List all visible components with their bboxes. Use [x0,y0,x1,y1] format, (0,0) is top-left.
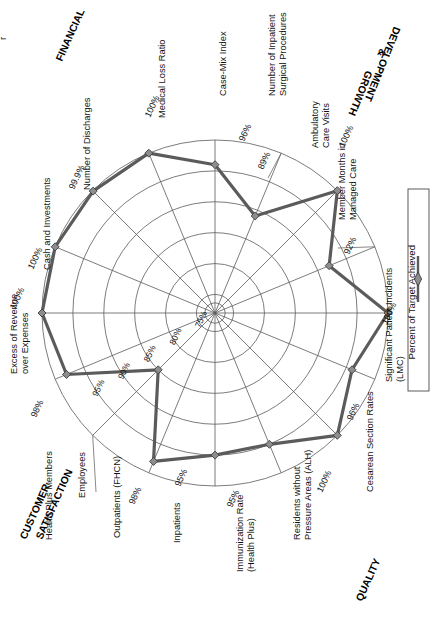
axis-label-text-member-months-1: Managed Care [348,158,358,220]
legend: Percent of Target Achieved [406,189,429,391]
ring-tick-labels: 75%80%85%90%95% [90,309,209,398]
data-marker-8 [265,440,273,448]
axis-spoke-7 [215,313,337,435]
axis-value-patient-incidents: 100% [380,301,399,326]
axis-label-text-case-mix-index-0: Case-Mix Index [218,31,228,96]
axis-value-outpatients-fhcn: 98% [127,485,144,506]
axis-label-inpatients: Inpatients95% [172,467,189,543]
ring-tick-label-80: 80% [167,326,183,346]
axis-label-text-cash-and-investments-0: Cash and Investments [42,177,52,270]
category-label-financial: FINANCIAL [54,7,87,63]
category-growth-development: GROWTH & DEVELOPMENT [346,25,402,117]
axis-label-excess-revenue: Excess of Revenueover Expenses100% [8,286,30,374]
axis-label-pressure-areas: Residents withoutPressure Areas (ALH)100… [292,450,334,540]
axis-value-inpatients: 95% [173,467,190,488]
axis-value-inpatient-surgical: 89% [256,150,273,171]
axis-label-patient-incidents: Significant Patient Incidents(LMC)100% [380,267,405,382]
radar-chart: 75%80%85%90%95% Medical Loss Ratio100%Ca… [0,0,431,630]
axis-value-excess-revenue: 100% [8,286,27,311]
axis-label-text-ambulatory-care-visits-1: Care Visits [321,103,331,148]
axis-value-member-months: 92% [342,235,359,256]
axis-label-inpatient-surgical: Number of InpatientSurgical Procedures89… [256,12,288,171]
axis-label-text-inpatient-surgical-0: Number of Inpatient [267,14,277,96]
axis-value-case-mix-index: 96% [237,122,254,143]
axis-label-text-medical-loss-ratio-0: Medical Loss Ratio [157,39,167,118]
data-marker-9 [211,451,219,459]
axis-label-text-pressure-areas-1: Pressure Areas (ALH) [303,450,313,540]
axis-label-text-member-months-0: Member Months in [337,143,347,220]
category-label-development: DEVELOPMENT [362,25,402,103]
legend-label: Percent of Target Achieved [406,245,417,360]
axis-label-cesarean-section-rates: Cesarean Section Rates96% [345,391,375,492]
axis-label-text-ambulatory-care-visits-0: Ambulatory [310,101,320,148]
axis-label-text-immunization-rate-1: (Health Plus) [246,518,256,572]
axis-value-pressure-areas: 100% [315,469,334,494]
axis-spoke-11 [93,313,215,435]
leader-line-2 [93,435,96,492]
axis-label-immunization-rate: Immunization Rate(Health Plus)95% [225,488,256,572]
axis-label-cash-and-investments: Cash and Investments100% [26,177,52,271]
axis-label-text-pressure-areas-0: Residents without [292,466,302,540]
axis-value-health-plus-members: 98% [29,398,46,419]
category-financial: FINANCIAL [54,7,87,63]
axis-label-text-inpatient-surgical-1: Surgical Procedures [278,12,288,96]
data-marker-10 [150,457,158,465]
axis-label-text-number-of-discharges-0: Number of Discharges [82,97,92,190]
axis-label-text-patient-incidents-1: (LMC) [395,356,405,382]
axis-value-cesarean-section-rates: 96% [345,401,362,422]
axis-label-case-mix-index: Case-Mix Index96% [218,31,253,143]
axis-label-member-months: Member Months inManaged Care92% [337,143,358,256]
axis-label-text-inpatients-0: Inpatients [172,502,182,543]
axis-label-medical-loss-ratio: Medical Loss Ratio100% [143,39,167,118]
axis-label-text-employees-0: Employees [77,452,87,498]
axis-label-text-outpatients-fhcn-0: Outpatients (FHCN) [112,456,122,538]
axis-label-text-immunization-rate-0: Immunization Rate [235,494,245,572]
axis-label-employees: Employees [77,452,87,498]
radar-chart-page: 75%80%85%90%95% Medical Loss Ratio100%Ca… [0,0,431,630]
ring-tick-label-85: 85% [142,343,158,363]
category-label-quality: QUALITY [354,557,383,603]
axis-label-text-excess-revenue-1: over Expenses [20,312,30,374]
ring-tick-label-95: 95% [90,378,106,398]
axis-spoke-15 [93,191,215,313]
cropped-text-fragment: r [0,37,8,40]
axis-label-text-cesarean-section-rates-0: Cesarean Section Rates [365,391,375,492]
axis-label-number-of-discharges: Number of Discharges99.9% [67,97,92,191]
category-quality: QUALITY [354,557,383,603]
